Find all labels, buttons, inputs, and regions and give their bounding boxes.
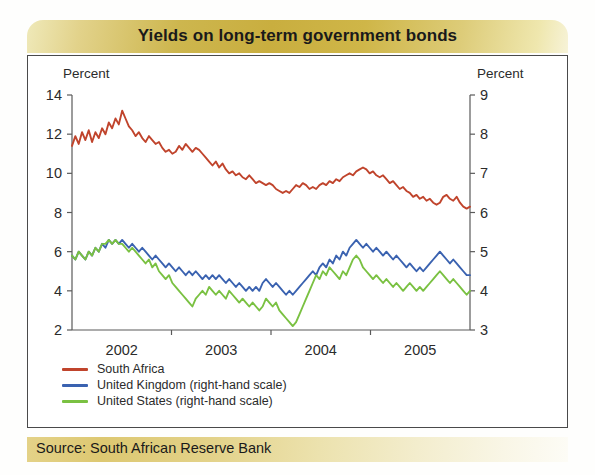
- svg-text:12: 12: [46, 126, 62, 142]
- svg-text:2003: 2003: [205, 342, 237, 358]
- series-line-united: [72, 240, 470, 326]
- legend-item-united-states: United States (right-hand scale): [62, 393, 287, 409]
- title-banner: Yields on long-term government bonds: [27, 20, 568, 53]
- legend: South Africa United Kingdom (right-hand …: [62, 361, 287, 409]
- source-bar: Source: South African Reserve Bank: [27, 437, 568, 462]
- right-axis-ticks: 3456789: [470, 87, 488, 338]
- legend-item-south-africa: South Africa: [62, 361, 287, 377]
- svg-text:5: 5: [480, 244, 488, 260]
- svg-text:14: 14: [46, 87, 62, 103]
- x-axis-ticks: 2002200320042005: [106, 330, 437, 358]
- svg-text:4: 4: [480, 283, 488, 299]
- svg-text:7: 7: [480, 165, 488, 181]
- svg-text:2004: 2004: [305, 342, 337, 358]
- left-axis-ticks: 2468101214: [46, 87, 72, 338]
- legend-label-united-states: United States (right-hand scale): [97, 394, 273, 408]
- legend-swatch-united-states: [62, 400, 88, 403]
- svg-text:2002: 2002: [106, 342, 138, 358]
- page-title: Yields on long-term government bonds: [27, 26, 568, 46]
- source-text: Source: South African Reserve Bank: [36, 440, 271, 456]
- legend-swatch-united-kingdom: [62, 384, 88, 387]
- svg-text:3: 3: [480, 322, 488, 338]
- svg-text:6: 6: [480, 205, 488, 221]
- svg-text:8: 8: [480, 126, 488, 142]
- data-series-group: [72, 111, 470, 326]
- legend-label-united-kingdom: United Kingdom (right-hand scale): [97, 378, 287, 392]
- svg-text:8: 8: [54, 205, 62, 221]
- chart-figure: Yields on long-term government bonds Per…: [0, 0, 595, 475]
- svg-text:2005: 2005: [404, 342, 436, 358]
- svg-text:4: 4: [54, 283, 62, 299]
- svg-text:9: 9: [480, 87, 488, 103]
- svg-text:10: 10: [46, 165, 62, 181]
- legend-item-united-kingdom: United Kingdom (right-hand scale): [62, 377, 287, 393]
- svg-text:2: 2: [54, 322, 62, 338]
- legend-label-south-africa: South Africa: [97, 362, 164, 376]
- legend-swatch-south-africa: [62, 368, 88, 371]
- series-line-south: [72, 111, 470, 209]
- svg-text:6: 6: [54, 244, 62, 260]
